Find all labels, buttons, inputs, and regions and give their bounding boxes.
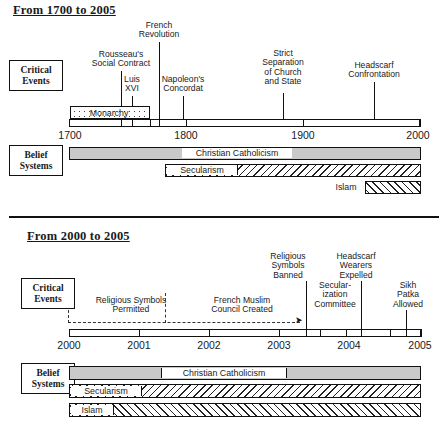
belief-bar-islam-2 [69,403,421,417]
timeline-1-title: From 1700 to 2005 [13,3,116,18]
belief-systems-row-label: Belief Systems [9,145,63,176]
belief-systems-line-2: Systems [20,161,53,172]
critical-events-row-label: Critical Events [9,60,63,91]
belief-systems-2-line-2: Systems [32,379,65,390]
axis2-year-2005: 2005 [399,339,441,351]
axis2-year-2003: 2003 [258,339,300,351]
event-secularization-committee: Secular- ization Committee [310,281,360,309]
belief-systems-row-label-2: Belief Systems [21,363,75,394]
axis2-year-2001: 2001 [118,339,160,351]
critical-events-line-2: Events [22,76,49,87]
axis-year-2000: 2000 [397,129,439,141]
event-line-headscarf [374,82,375,121]
event-french-muslim-council: French Muslim Council Created [192,296,292,315]
axis-year-1700: 1700 [49,129,91,141]
axis2-tick-expelled [361,329,362,337]
belief-bar-islam-2-label: Islam [71,405,114,415]
axis2-year-2000: 2000 [48,339,90,351]
event-strict-separation: Strict Separation of Church and State [252,49,314,87]
axis2-year-2002: 2002 [188,339,230,351]
axis-tick-1900 [303,119,304,127]
axis2-tick-patka [406,329,407,337]
axis-year-1900: 1900 [282,129,324,141]
belief-bar-secularism-label: Secularism [167,165,238,175]
event-line-concordat [183,96,184,121]
axis-year-1800: 1800 [165,129,207,141]
axis2-tick-2003 [320,329,321,337]
event-luis-xvi: Luis XVI [115,75,149,94]
axis-tick-1800 [186,119,187,127]
axis2-year-2004: 2004 [328,339,370,351]
event-religious-symbols-permitted: Religious Symbols Permitted [76,296,186,315]
event-line-secularization [361,281,362,329]
timeline-2-axis [69,329,421,337]
belief-bar-islam-label: Islam [327,182,365,192]
axis-tick-revolution [150,119,151,127]
axis2-tick-2002-mid [279,329,280,337]
axis-tick-rousseau [121,119,122,127]
critical-events-2-line-1: Critical [32,283,63,294]
axis-tick-1700 [69,119,70,127]
event-rousseau-social-contract: Rousseau's Social Contract [75,50,167,69]
axis2-tick-2005 [421,329,422,337]
critical-events-2-line-2: Events [34,294,61,305]
period-bar-monarchy-label: Monarchy [84,108,134,118]
event-sikh-patka-allowed: Sikh Patka Allowed [385,281,431,309]
belief-bar-islam [365,181,421,194]
panel-divider [9,216,439,218]
event-headscarf-wearers-expelled: Headscarf Wearers Expelled [325,252,387,280]
critical-events-line-1: Critical [20,65,51,76]
axis-tick-2000 [419,119,420,127]
event-napoleons-concordat: Napoleon's Concordat [152,75,214,94]
event-line-sikh-patka [406,310,407,329]
event-line-symbols-banned [306,281,307,329]
axis2-tick-2003-mid [346,329,347,337]
event-arrow-permitted: ➤ [295,316,303,325]
axis2-tick-banned [306,329,307,337]
axis2-tick-2004 [390,329,391,337]
belief-systems-line-1: Belief [24,150,47,161]
belief-systems-2-line-1: Belief [36,368,59,379]
belief-bar-secularism-2-label: Secularism [71,386,142,396]
event-bracket-permitted-left [68,310,69,323]
event-line-separation [283,93,284,121]
axis2-tick-2001 [139,329,140,337]
belief-bar-christian-catholicism-label: Christian Catholicism [182,148,292,158]
event-bracket-permitted-line [68,322,300,323]
timeline-2-title: From 2000 to 2005 [27,229,130,244]
critical-events-row-label-2: Critical Events [21,278,75,309]
axis2-tick-2002 [209,329,210,337]
axis2-tick-2000 [69,329,70,337]
axis-tick-luis [132,119,133,127]
event-religious-symbols-banned: Religious Symbols Banned [262,252,314,280]
event-french-revolution: French Revolution [126,21,192,40]
axis-tick-1800-pre [159,119,160,127]
belief-bar-christian-catholicism-2-label: Christian Catholicism [161,368,287,378]
event-bracket-permitted-right [165,293,166,323]
event-headscarf-confrontation: Headscarf Confrontation [330,61,418,80]
